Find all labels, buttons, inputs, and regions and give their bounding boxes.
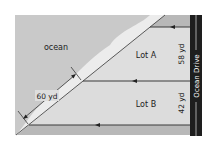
lot-diagram: ocean Lot A Lot B 60 yd 58 yd 42 yd Ocea… (0, 0, 211, 145)
lot-b-frontage-label: 42 yd (177, 92, 186, 113)
lot-a-label: Lot A (136, 51, 157, 60)
ocean-label: ocean (44, 43, 68, 52)
lot-a-frontage-label: 58 yd (177, 43, 186, 64)
lower-parcel (17, 125, 190, 135)
lot-b-label: Lot B (136, 100, 156, 109)
waterfront-length-label: 60 yd (36, 92, 57, 101)
road-label: Ocean Drive (193, 54, 201, 97)
